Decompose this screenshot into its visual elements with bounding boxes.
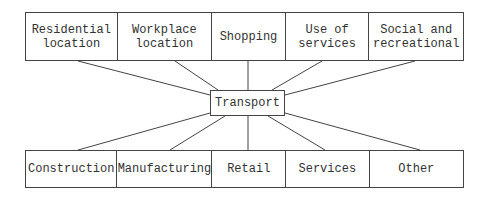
node-shopping: Shopping	[212, 13, 286, 60]
connector-workplace	[175, 61, 218, 90]
node-residential-location: Residential location	[26, 13, 118, 60]
connector-residential	[78, 61, 210, 95]
diagram-canvas: Residential location Workplace location …	[0, 0, 488, 198]
top-row-activities: Residential location Workplace location …	[25, 12, 464, 61]
node-retail: Retail	[212, 151, 286, 187]
connector-construction	[78, 113, 210, 150]
node-use-of-services: Use of services	[286, 13, 370, 60]
node-manufacturing: Manufacturing	[117, 151, 212, 187]
node-workplace-location: Workplace location	[118, 13, 213, 60]
connector-manufacturing	[170, 116, 225, 150]
connector-other	[285, 113, 420, 150]
node-other: Other	[370, 151, 463, 187]
bottom-row-sectors: Construction Manufacturing Retail Servic…	[25, 150, 464, 188]
connector-social	[285, 61, 415, 95]
hub-transport: Transport	[210, 90, 285, 116]
node-construction: Construction	[26, 151, 117, 187]
connector-services-use	[272, 61, 322, 90]
node-social-recreational: Social and recreational	[369, 13, 463, 60]
node-services: Services	[286, 151, 370, 187]
connector-services	[268, 116, 325, 150]
